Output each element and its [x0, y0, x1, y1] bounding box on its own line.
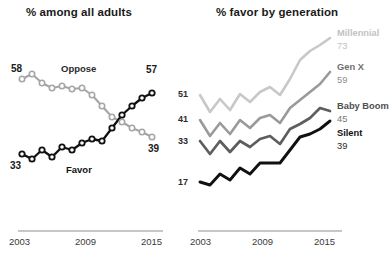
left-axis-tick-2009: 2009 [75, 236, 96, 247]
babyboom-start-value: 33 [178, 136, 188, 146]
right-axis-tick-2015: 2015 [314, 236, 335, 247]
figure-root: % among all adults [0, 0, 390, 263]
series-line-silent [200, 121, 330, 185]
silent-start-value: 17 [178, 177, 188, 187]
millennial-start-value: 51 [178, 89, 188, 99]
chart-panel-all-adults: % among all adults [0, 0, 196, 263]
series-line-babyboom [200, 108, 330, 154]
legend-label-millennial: Millennial [337, 28, 379, 38]
left-axis-tick-2003: 2003 [9, 236, 30, 247]
oppose-start-value: 58 [11, 63, 22, 74]
favor-start-value: 33 [10, 160, 21, 171]
millennial-end-value: 73 [337, 41, 347, 51]
oppose-end-value: 39 [148, 143, 159, 154]
series-label-favor: Favor [66, 164, 92, 175]
babyboom-end-value: 45 [337, 114, 347, 124]
legend-label-genx: Gen X [337, 62, 364, 72]
right-axis-tick-2003: 2003 [190, 236, 211, 247]
left-axis-tick-2015: 2015 [141, 236, 162, 247]
chart-panel-by-generation: % favor by generation 51 41 33 17 Millen… [196, 0, 390, 263]
silent-end-value: 39 [337, 141, 347, 151]
genx-start-value: 41 [178, 114, 188, 124]
right-axis-tick-2009: 2009 [252, 236, 273, 247]
legend-label-silent: Silent [337, 128, 362, 138]
series-line-millennial [200, 38, 330, 112]
left-chart-plot [0, 0, 196, 263]
series-label-oppose: Oppose [61, 63, 96, 74]
legend-label-babyboom: Baby Boom [337, 101, 389, 111]
genx-end-value: 59 [337, 75, 347, 85]
series-line-genx [200, 72, 330, 136]
favor-end-value: 57 [146, 64, 157, 75]
